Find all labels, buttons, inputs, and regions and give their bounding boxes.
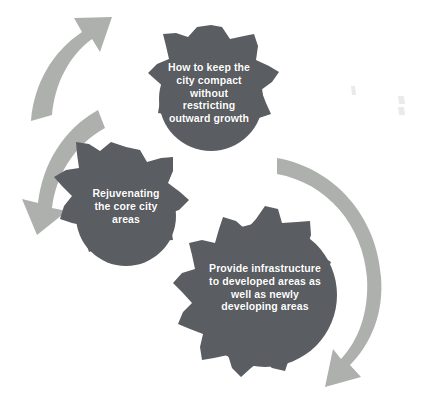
- arrow-curved-up-right: [31, 17, 112, 121]
- scan-speck-upper: [351, 86, 356, 95]
- scan-speck-right: [398, 96, 405, 115]
- diagram-canvas: How to keep thecity compactwithoutrestri…: [0, 0, 434, 405]
- gear-middle-left: [54, 142, 189, 266]
- gear-bottom-right: [173, 206, 337, 377]
- gear-top: [148, 25, 279, 151]
- diagram-graphics: [0, 0, 434, 405]
